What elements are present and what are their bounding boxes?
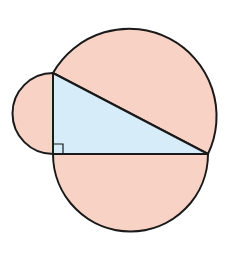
vertical-leg-semicircle [13,73,54,154]
right-triangle-semicircles-diagram [0,0,228,254]
horizontal-leg-semicircle [53,154,208,232]
